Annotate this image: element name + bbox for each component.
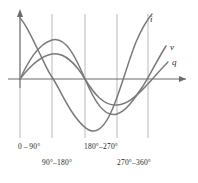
curve-label-q: q bbox=[172, 58, 177, 67]
curve-label-v: v bbox=[170, 43, 174, 52]
curve-i bbox=[20, 14, 152, 131]
quadrant-label-0-90: 0 – 90° bbox=[18, 143, 40, 151]
quadrant-label-180-270: 180°–270° bbox=[84, 143, 118, 151]
quadrant-label-90-180: 90°–180° bbox=[42, 159, 72, 167]
quadrant-label-270-360: 270°–360° bbox=[117, 159, 151, 167]
x-axis-arrowhead bbox=[179, 76, 186, 82]
curve-label-i: i bbox=[150, 15, 153, 24]
sinusoid-figure: i v q 0 – 90° 90°–180° 180°–270° 270°–36… bbox=[0, 0, 198, 183]
curve-v bbox=[20, 40, 166, 115]
axes bbox=[8, 9, 186, 88]
curves bbox=[20, 14, 168, 131]
plot-canvas bbox=[0, 0, 198, 183]
y-axis-arrowhead bbox=[17, 9, 23, 17]
